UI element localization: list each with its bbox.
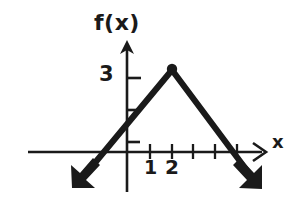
x-tick-label-2: 2 bbox=[165, 157, 179, 177]
y-tick-label-3: 3 bbox=[99, 64, 114, 85]
vertex-point-marker bbox=[167, 64, 177, 74]
left-ray-arrowhead-icon bbox=[71, 158, 100, 188]
x-axis-title-label: x bbox=[272, 133, 284, 151]
right-ray-arrowhead-icon bbox=[233, 158, 262, 189]
graph-figure: f(x) 3 1 2 x bbox=[0, 0, 300, 199]
x-tick-label-1: 1 bbox=[144, 158, 157, 177]
y-axis-title-label: f(x) bbox=[94, 12, 140, 34]
